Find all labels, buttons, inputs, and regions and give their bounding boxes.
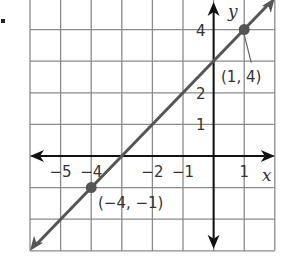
svg-text:1: 1	[196, 116, 206, 134]
x-axis-label: x	[262, 165, 272, 185]
svg-text:−4: −4	[80, 163, 102, 181]
point-label-1-4: (1, 4)	[221, 68, 261, 86]
point-label-neg4-neg1: (−4, −1)	[98, 194, 163, 212]
y-axis-label: y	[227, 1, 238, 21]
svg-text:−2: −2	[141, 163, 163, 181]
svg-text:1: 1	[239, 163, 249, 181]
svg-text:−1: −1	[172, 163, 194, 181]
svg-text:2: 2	[196, 85, 206, 103]
coordinate-graph: −5−4−2−11421 y x (1, 4) (−4, −1)	[0, 0, 281, 263]
svg-text:4: 4	[196, 22, 206, 40]
tick-labels: −5−4−2−11421	[50, 22, 249, 181]
svg-text:−5: −5	[50, 163, 72, 181]
